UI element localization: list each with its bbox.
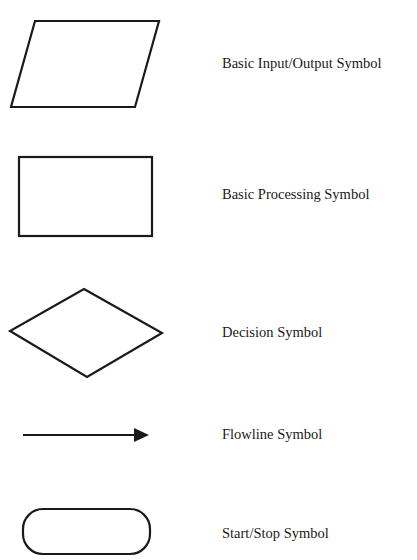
parallelogram-io-symbol-icon: [11, 21, 159, 107]
label-start-stop-symbol: Start/Stop Symbol: [222, 526, 329, 541]
flowline-arrowhead-icon: [134, 428, 149, 442]
label-flowline-symbol: Flowline Symbol: [222, 427, 322, 442]
label-processing-symbol: Basic Processing Symbol: [222, 187, 369, 202]
label-decision-symbol: Decision Symbol: [222, 325, 322, 340]
diamond-decision-symbol-icon: [10, 289, 162, 377]
rounded-rectangle-start-stop-symbol-icon: [23, 509, 150, 554]
rectangle-process-symbol-icon: [19, 157, 152, 236]
symbol-canvas: [0, 0, 417, 560]
label-input-output-symbol: Basic Input/Output Symbol: [222, 56, 382, 71]
